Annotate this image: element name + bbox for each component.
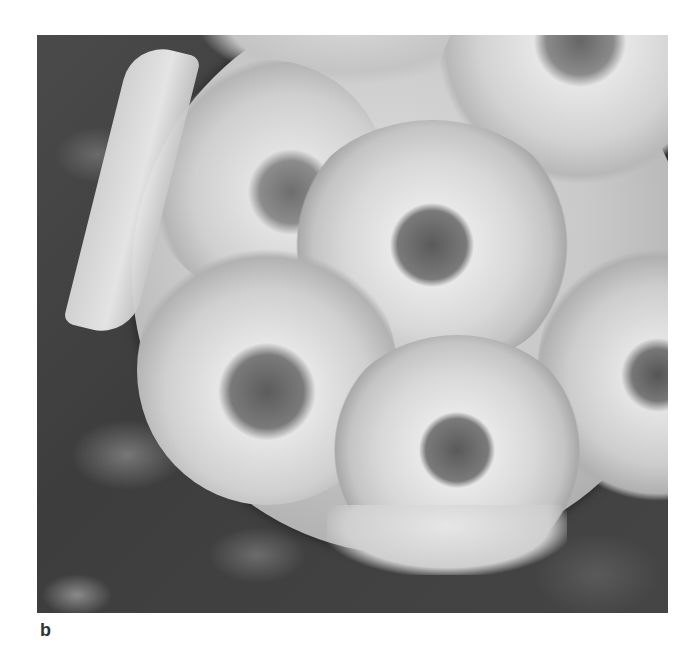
basal-plate [327, 505, 567, 575]
panel-label: b [40, 620, 51, 641]
sem-micrograph [37, 35, 668, 613]
